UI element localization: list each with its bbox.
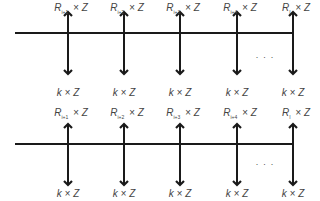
label-suffix: × Z: [293, 107, 311, 118]
label-suffix: × Z: [239, 107, 257, 118]
row-2-bottom-label: k × Z: [282, 189, 305, 199]
label-subscript: i+2: [117, 114, 124, 120]
label-subscript: i+1: [61, 9, 68, 15]
label-subscript: I: [289, 9, 290, 15]
label-suffix: × Z: [182, 107, 200, 118]
label-suffix: × Z: [126, 2, 144, 13]
row-2-timeline: [15, 124, 293, 185]
row-2-top-label: RI × Z: [282, 108, 310, 122]
row-1-bottom-label: k × Z: [226, 88, 249, 98]
row-2-top-label: Ri+1 × Z: [54, 108, 88, 122]
label-subscript: i+2: [117, 9, 124, 15]
row-2-ellipsis: · · ·: [256, 160, 275, 169]
label-suffix: × Z: [126, 107, 144, 118]
label-suffix: × Z: [239, 2, 257, 13]
row-2-top-label: Ri+4 × Z: [223, 108, 257, 122]
row-1-bottom-label: k × Z: [282, 88, 305, 98]
row-1-top-label: Ri+1 × Z: [54, 3, 88, 17]
label-subscript: i+3: [173, 114, 180, 120]
row-1-bottom-label: k × Z: [57, 88, 80, 98]
row-2-bottom-label: k × Z: [226, 189, 249, 199]
row-2-bottom-label: k × Z: [57, 189, 80, 199]
row-1-top-label: RI × Z: [282, 3, 310, 17]
row-1-bottom-label: k × Z: [113, 88, 136, 98]
row-1-timeline: [15, 12, 293, 74]
row-1-top-label: Ri+4 × Z: [223, 3, 257, 17]
label-subscript: i+1: [61, 114, 68, 120]
diagram-canvas: [0, 0, 320, 201]
row-1-ellipsis: · · ·: [256, 53, 275, 62]
row-1-top-label: Ri+3 × Z: [166, 3, 200, 17]
label-subscript: i+3: [173, 9, 180, 15]
row-2-top-label: Ri+2 × Z: [110, 108, 144, 122]
label-suffix: × Z: [70, 107, 88, 118]
label-subscript: I: [289, 114, 290, 120]
label-suffix: × Z: [293, 2, 311, 13]
row-1-bottom-label: k × Z: [169, 88, 192, 98]
label-subscript: i+4: [230, 9, 237, 15]
row-1-top-label: Ri+2 × Z: [110, 3, 144, 17]
row-2-bottom-label: k × Z: [169, 189, 192, 199]
label-suffix: × Z: [182, 2, 200, 13]
row-2-bottom-label: k × Z: [113, 189, 136, 199]
label-subscript: i+4: [230, 114, 237, 120]
row-2-top-label: Ri+3 × Z: [166, 108, 200, 122]
label-suffix: × Z: [70, 2, 88, 13]
